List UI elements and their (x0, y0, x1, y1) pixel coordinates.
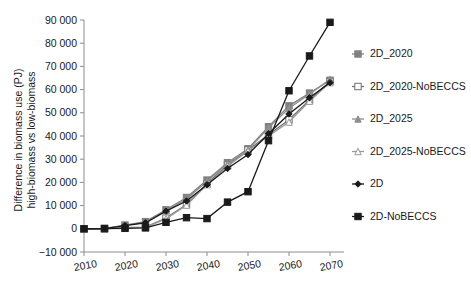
y-tick-label: 90 000 (45, 14, 77, 26)
legend-label: 2D_2020-NoBECCS (370, 80, 466, 92)
x-tick-label: 2040 (196, 257, 221, 273)
legend-swatch-marker (355, 83, 361, 89)
series-line (84, 83, 330, 229)
series-line (84, 83, 330, 229)
y-tick-label: 10 000 (45, 199, 77, 211)
y-tick-label: 30 000 (45, 153, 77, 165)
series-line (84, 79, 330, 229)
y-axis-title: Difference in biomass use (PJ) high-biom… (12, 69, 37, 212)
series-line (84, 80, 330, 228)
x-tick-label: 2030 (155, 257, 180, 273)
x-tick-label: 2070 (319, 257, 344, 273)
series-line (84, 22, 330, 228)
legend-swatch-marker (355, 51, 361, 57)
legend-swatch-marker (355, 181, 361, 187)
y-axis-title-line2: high-biomass vs low-biomass (25, 71, 37, 208)
legend-item-2D_2020[interactable]: 2D_2020 (352, 47, 413, 59)
legend-item-2D_2025[interactable]: 2D_2025 (352, 112, 413, 124)
x-axis-ticks: 2010202020302040205020602070 (73, 252, 344, 273)
x-tick-label: 2020 (114, 257, 139, 273)
legend-item-2D-NoBECCS[interactable]: 2D-NoBECCS (352, 210, 437, 222)
legend-item-2D[interactable]: 2D (352, 177, 384, 189)
data-point-marker (204, 215, 210, 221)
data-point-marker (306, 53, 312, 59)
series-2D_2025 (81, 76, 333, 232)
legend-label: 2D (370, 177, 384, 189)
data-point-marker (101, 225, 107, 231)
x-tick-label: 2050 (237, 257, 262, 273)
legend-item-2D_2025-NoBECCS[interactable]: 2D_2025-NoBECCS (352, 145, 466, 157)
data-point-marker (122, 225, 128, 231)
legend-swatch-marker (355, 213, 361, 219)
line-chart: Difference in biomass use (PJ) high-biom… (0, 0, 471, 286)
data-point-marker (265, 137, 271, 143)
y-tick-label: 40 000 (45, 130, 77, 142)
legend-label: 2D_2025 (370, 112, 413, 124)
data-point-marker (245, 188, 251, 194)
y-axis-title-line1: Difference in biomass use (PJ) (12, 69, 24, 212)
y-tick-label: 0 (71, 222, 77, 234)
data-point-marker (224, 199, 230, 205)
series-layer (81, 19, 333, 232)
data-point-marker (163, 219, 169, 225)
data-point-marker (142, 225, 148, 231)
chart-figure: Difference in biomass use (PJ) high-biom… (0, 0, 471, 286)
data-point-marker (327, 19, 333, 25)
legend-item-2D_2020-NoBECCS[interactable]: 2D_2020-NoBECCS (352, 80, 466, 92)
legend-label: 2D-NoBECCS (370, 210, 437, 222)
y-axis-ticks: −10 000010 00020 00030 00040 00050 00060… (39, 14, 84, 258)
series-2D_2020 (81, 77, 333, 232)
chart-legend: 2D_20202D_2020-NoBECCS2D_20252D_2025-NoB… (352, 47, 466, 222)
data-point-marker (81, 226, 87, 232)
y-tick-label: −10 000 (39, 246, 77, 258)
y-tick-label: 50 000 (45, 106, 77, 118)
data-point-marker (286, 88, 292, 94)
x-tick-label: 2060 (278, 257, 303, 273)
y-tick-label: 20 000 (45, 176, 77, 188)
y-tick-label: 80 000 (45, 37, 77, 49)
x-tick-label: 2010 (73, 257, 98, 273)
legend-label: 2D_2025-NoBECCS (370, 145, 466, 157)
y-tick-label: 70 000 (45, 60, 77, 72)
y-tick-label: 60 000 (45, 83, 77, 95)
legend-label: 2D_2020 (370, 47, 413, 59)
data-point-marker (183, 214, 189, 220)
series-2D-NoBECCS (81, 19, 333, 232)
